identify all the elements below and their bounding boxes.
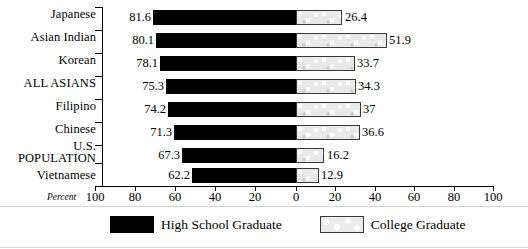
bar-row: 81.6 26.4 bbox=[0, 10, 528, 25]
legend-item-college-graduate: College Graduate bbox=[320, 216, 466, 233]
bar-row: 62.2 12.9 bbox=[0, 168, 528, 183]
x-axis-tick-label: 80 bbox=[115, 191, 155, 204]
bar-high-school-vietnamese bbox=[192, 168, 296, 183]
legend-label-high-school: High School Graduate bbox=[161, 217, 282, 232]
bar-value-college: 36.6 bbox=[362, 125, 384, 140]
legend-swatch-college-icon bbox=[320, 216, 364, 233]
bar-value-high-school: 67.3 bbox=[135, 148, 180, 163]
bar-college-vietnamese bbox=[296, 168, 319, 183]
bar-row: 71.3 36.6 bbox=[0, 125, 528, 140]
plot-area: 81.6 26.4 80.1 51.9 78.1 33.7 75.3 34.3 … bbox=[0, 0, 528, 190]
bar-value-high-school: 80.1 bbox=[109, 33, 154, 48]
bar-value-college: 37 bbox=[363, 102, 376, 117]
bar-college-chinese bbox=[296, 125, 360, 140]
bar-value-high-school: 74.2 bbox=[121, 102, 166, 117]
legend-item-high-school-graduate: High School Graduate bbox=[110, 216, 282, 233]
bar-college-filipino bbox=[296, 102, 361, 117]
x-axis-title: Percent bbox=[47, 192, 76, 202]
x-axis-tick-label: 100 bbox=[75, 191, 115, 204]
chart-legend: High School Graduate College Graduate bbox=[0, 206, 528, 248]
bar-college-asian-indian bbox=[296, 33, 387, 48]
bar-high-school-japanese bbox=[153, 10, 296, 25]
bar-high-school-all-asians bbox=[166, 79, 296, 94]
bar-value-college: 12.9 bbox=[321, 168, 343, 183]
x-axis-tick-label: 20 bbox=[235, 191, 275, 204]
legend-label-college: College Graduate bbox=[371, 217, 466, 232]
diverging-bar-chart: Japanese Asian Indian Korean ALL ASIANS … bbox=[0, 0, 528, 249]
bar-value-college: 51.9 bbox=[389, 33, 411, 48]
legend-swatch-high-school-icon bbox=[110, 216, 154, 233]
bar-value-college: 26.4 bbox=[345, 10, 367, 25]
bar-row: 80.1 51.9 bbox=[0, 33, 528, 48]
bar-row: 67.3 16.2 bbox=[0, 148, 528, 163]
bar-high-school-korean bbox=[160, 56, 296, 71]
bar-college-korean bbox=[296, 56, 355, 71]
bar-value-high-school: 75.3 bbox=[119, 79, 164, 94]
x-axis-tick-label: 0 bbox=[276, 191, 316, 204]
bar-value-college: 16.2 bbox=[327, 148, 349, 163]
bar-high-school-us-population bbox=[182, 148, 296, 163]
bar-value-college: 33.7 bbox=[357, 56, 379, 71]
bar-row: 75.3 34.3 bbox=[0, 79, 528, 94]
bar-high-school-filipino bbox=[168, 102, 296, 117]
bar-high-school-asian-indian bbox=[156, 33, 296, 48]
x-axis-tick-label: 20 bbox=[315, 191, 355, 204]
x-axis-tick-label: 40 bbox=[195, 191, 235, 204]
bar-value-high-school: 81.6 bbox=[106, 10, 151, 25]
x-axis-tick-label: 100 bbox=[473, 191, 513, 204]
x-axis-tick-label: 40 bbox=[355, 191, 395, 204]
x-axis-line bbox=[95, 186, 494, 187]
x-axis-tick-label: 60 bbox=[394, 191, 434, 204]
bar-row: 74.2 37 bbox=[0, 102, 528, 117]
bar-value-high-school: 71.3 bbox=[127, 125, 172, 140]
bar-college-japanese bbox=[296, 10, 342, 25]
bar-college-us-population bbox=[296, 148, 324, 163]
x-axis-tick-label: 60 bbox=[155, 191, 195, 204]
bar-value-high-school: 62.2 bbox=[145, 168, 190, 183]
bar-value-college: 34.3 bbox=[358, 79, 380, 94]
bar-college-all-asians bbox=[296, 79, 356, 94]
x-axis-tick-label: 80 bbox=[434, 191, 474, 204]
bar-high-school-chinese bbox=[174, 125, 296, 140]
bar-value-high-school: 78.1 bbox=[113, 56, 158, 71]
bar-row: 78.1 33.7 bbox=[0, 56, 528, 71]
